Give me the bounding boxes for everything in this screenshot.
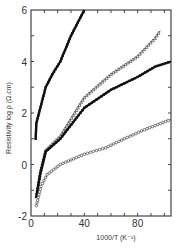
data-point (143, 128, 146, 131)
data-point (49, 147, 51, 149)
data-point (74, 119, 76, 121)
y-tick-label: 6 (21, 5, 27, 16)
data-point (151, 67, 153, 69)
data-point (38, 178, 40, 180)
data-point (61, 135, 63, 137)
data-point (120, 83, 122, 85)
data-point (51, 145, 53, 147)
data-point (92, 150, 95, 153)
data-point (141, 73, 143, 75)
y-tick-label: 2 (21, 108, 27, 119)
y-tick-label: 4 (21, 57, 27, 68)
data-point (39, 109, 41, 111)
data-point (35, 131, 37, 133)
data-point (43, 92, 45, 94)
data-point (37, 187, 39, 189)
data-point (40, 170, 42, 172)
data-point (72, 121, 74, 123)
data-point (164, 120, 167, 123)
data-point (86, 152, 89, 155)
series-1-line (36, 10, 85, 139)
data-point (144, 71, 146, 73)
data-point (120, 139, 123, 142)
data-point (51, 73, 53, 75)
data-point (82, 11, 84, 13)
data-point (140, 130, 143, 133)
data-point (44, 89, 46, 91)
plot-border (31, 10, 171, 216)
data-point (115, 86, 117, 88)
data-point (112, 87, 114, 89)
series-4-line (36, 119, 171, 205)
data-point (67, 128, 69, 130)
data-point (40, 185, 43, 188)
data-point (65, 130, 67, 132)
y-tick-label: -2 (18, 211, 27, 222)
data-point (98, 148, 101, 151)
data-point (38, 193, 41, 196)
data-point (100, 95, 102, 97)
data-point (107, 145, 110, 148)
data-point (80, 14, 82, 16)
data-point (34, 138, 36, 140)
data-point (35, 122, 37, 124)
data-point (76, 22, 78, 24)
series-3-line (36, 62, 171, 197)
data-point (139, 74, 141, 76)
data-point (47, 149, 49, 151)
x-tick-label: 40 (79, 218, 91, 229)
data-point (88, 103, 90, 105)
data-point (103, 94, 105, 96)
data-point (42, 95, 44, 97)
data-point (154, 65, 156, 67)
data-point (64, 49, 66, 51)
data-point (81, 109, 83, 111)
data-point (42, 161, 44, 163)
data-point (118, 140, 121, 143)
data-point (42, 159, 44, 161)
data-point (95, 98, 97, 100)
data-point (83, 107, 85, 109)
data-point (132, 134, 135, 137)
data-point (35, 204, 38, 207)
data-point (39, 172, 41, 174)
data-point (156, 65, 158, 67)
data-point (110, 89, 112, 91)
data-point (41, 182, 44, 185)
x-tick-label: 0 (28, 218, 34, 229)
data-point (146, 70, 148, 72)
x-tick-label: 80 (132, 218, 144, 229)
data-point (36, 120, 38, 122)
data-point (69, 37, 71, 39)
data-point (40, 103, 42, 105)
data-point (67, 40, 69, 42)
data-point (57, 139, 59, 141)
data-point (44, 153, 46, 155)
data-point (134, 77, 136, 79)
data-point (59, 138, 61, 140)
data-point (126, 136, 129, 139)
data-point (118, 85, 120, 87)
data-point (36, 202, 39, 205)
data-point (39, 188, 42, 191)
data-point (137, 131, 140, 134)
data-point (72, 29, 74, 31)
data-point (107, 90, 109, 92)
data-point (75, 24, 77, 26)
data-point (72, 157, 75, 160)
data-point (95, 149, 98, 152)
data-point (149, 68, 151, 70)
data-point (159, 122, 162, 125)
data-point (35, 134, 37, 136)
series-4 (35, 119, 171, 207)
y-axis-label: Resistivity log ρ (Ω.cm) (5, 82, 13, 154)
data-point (162, 63, 164, 65)
data-point (71, 32, 73, 34)
data-point (156, 123, 159, 126)
data-point (41, 100, 43, 102)
data-point (131, 78, 133, 80)
data-point (60, 57, 62, 59)
data-point (79, 111, 81, 113)
data-point (134, 132, 137, 135)
data-point (148, 126, 151, 129)
